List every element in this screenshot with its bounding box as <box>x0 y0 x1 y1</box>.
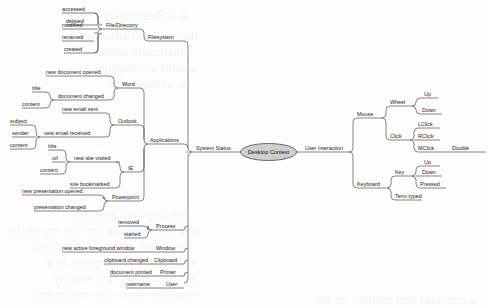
link-system-to-applications <box>170 144 188 148</box>
mindmap-canvas: Desktop Context System Status Filesystem… <box>0 0 488 308</box>
event-new-document-opened: new document opened <box>46 69 101 75</box>
link-keyboard-to-key <box>383 176 395 188</box>
link-ui-to-mouse <box>345 118 357 152</box>
leaf-wheel-down: Down <box>422 107 436 113</box>
link-process-down <box>144 230 152 238</box>
event-username: username <box>126 281 150 287</box>
label-click: Click <box>390 133 402 139</box>
link-ie-attr-up <box>62 150 74 162</box>
link-keyboard-to-term <box>387 188 395 200</box>
label-outlook: Outlook <box>118 118 137 124</box>
label-process: Process <box>156 223 176 229</box>
event-new-email-sent: new email sent <box>62 106 98 112</box>
link-ie-attr-down <box>62 162 70 174</box>
attr-ie-url: url <box>52 155 58 161</box>
label-user: User <box>166 281 178 287</box>
link-outlook-attr-up <box>32 125 44 137</box>
label-ie: IE <box>128 165 133 171</box>
leaf-wheel-up: Up <box>424 91 431 97</box>
link-ie-down <box>116 172 124 188</box>
root-label: Desktop Context <box>248 149 290 155</box>
leaf-term-typed: Term typed <box>395 193 422 199</box>
link-system-to-process <box>178 226 188 230</box>
link-ui-to-keyboard <box>349 152 357 188</box>
mindmap-figure: 4.2 Regularity theory. We following cons… <box>0 0 488 308</box>
label-user-interaction: User Interaction <box>305 145 343 151</box>
leaf-modified: modified <box>62 22 82 28</box>
attr-ie-title: title <box>48 143 56 149</box>
event-site-bookmarked: site bookmarked <box>70 181 110 187</box>
link-word-up <box>110 76 122 88</box>
link-outlook-attr-down <box>32 137 40 149</box>
link-ppt-down <box>100 201 108 211</box>
label-wheel: Wheel <box>390 99 405 105</box>
event-new-active-foreground-window: new active foreground window <box>62 245 135 251</box>
label-word: Word <box>122 81 135 87</box>
label-file-directory: File/Directory <box>106 22 138 28</box>
label-printer: Printer <box>160 269 176 275</box>
leaf-key-down: Down <box>422 169 436 175</box>
leaf-lclick: LClick <box>418 121 433 127</box>
link-system-to-clipboard <box>178 260 188 264</box>
event-new-email-received: new email received <box>44 130 90 136</box>
label-clipboard: Clipboard <box>154 257 177 263</box>
leaf-double: Double <box>452 145 469 151</box>
event-clipboard-changed: clipboard changed <box>104 257 148 263</box>
link-system-spine-down <box>184 152 192 283</box>
link-click-down <box>410 140 418 152</box>
event-process-removed: removed <box>118 219 139 225</box>
event-document-changed: document changed <box>58 93 104 99</box>
link-system-to-filesystem <box>184 41 196 152</box>
link-ie-up <box>116 162 128 172</box>
label-powerpoint: Powerpoint <box>112 194 139 200</box>
leaf-key-pressed: Pressed <box>420 181 440 187</box>
link-apps-ie-stub <box>140 168 144 172</box>
link-system-to-window <box>178 248 188 252</box>
link-system-to-printer <box>178 272 188 276</box>
attr-outlook-sender: sender <box>12 130 29 136</box>
link-outlook-up <box>106 113 118 125</box>
link-wheel-up <box>408 98 420 106</box>
leaf-renamed: renamed <box>62 34 83 40</box>
link-process-up <box>144 226 156 230</box>
root-node[interactable]: Desktop Context <box>241 144 297 161</box>
label-filesystem: Filesystem <box>148 34 174 40</box>
label-applications: Applications <box>150 137 179 143</box>
link-mouse-to-wheel <box>378 106 390 118</box>
link-outlook-down <box>106 125 114 137</box>
link-mouse-to-click <box>382 118 390 140</box>
label-window: Window <box>156 245 175 251</box>
joint-created <box>94 33 102 53</box>
link-word-attr-up <box>46 92 58 100</box>
event-new-presentation-opened: new presentation opened <box>22 188 83 194</box>
attr-word-content: content <box>22 101 40 107</box>
link-click-up <box>406 128 418 140</box>
link-fd-up <box>94 13 106 29</box>
attr-word-title: title <box>32 85 40 91</box>
link-apps-outlook-stub <box>140 125 144 129</box>
link-word-down <box>110 88 118 100</box>
event-presentation-changed: presentation changed <box>34 204 86 210</box>
leaf-rclick: RClick <box>418 133 434 139</box>
event-new-site-visited: new site visited <box>74 155 111 161</box>
link-filesystem-to-file-directory <box>140 29 148 41</box>
leaf-accessed: accessed <box>62 6 85 12</box>
attr-outlook-subject: subject <box>10 118 28 124</box>
event-document-printed: document printed <box>110 269 152 275</box>
leaf-created: created <box>64 46 82 52</box>
attr-ie-content: content <box>40 167 58 173</box>
link-ppt-up <box>100 195 112 201</box>
link-key-up <box>408 166 420 176</box>
leaf-key-up: Up <box>424 159 431 165</box>
link-wheel-down <box>412 106 420 114</box>
label-mouse: Mouse <box>357 111 373 117</box>
label-keyboard: Keyboard <box>357 181 380 187</box>
link-word-attr-down <box>46 100 54 108</box>
link-apps-up <box>140 88 150 144</box>
link-key-down <box>412 176 420 188</box>
attr-outlook-content: content <box>10 142 28 148</box>
label-system-status: System Status <box>196 145 231 151</box>
event-process-started: started <box>124 231 140 237</box>
label-key: Key <box>395 169 405 175</box>
leaf-mclick: MClick <box>418 145 434 151</box>
